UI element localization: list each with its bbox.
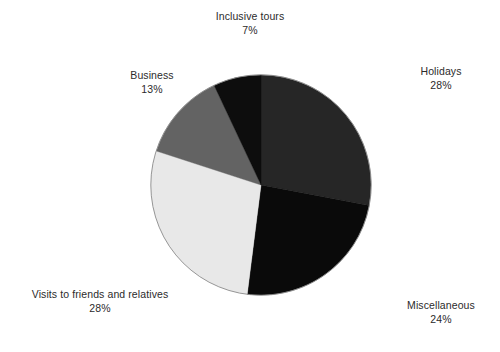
slice-label-inclusive-tours: Inclusive tours 7% (170, 10, 330, 38)
pie-chart-figure: Inclusive tours 7% Business 13% Holidays… (0, 0, 500, 352)
pie-slice-holidays[interactable] (261, 75, 371, 206)
slice-label-name: Business (92, 69, 212, 83)
slice-label-visits-to-friends-and-relatives: Visits to friends and relatives 28% (8, 288, 192, 316)
slice-label-name: Holidays (386, 65, 496, 79)
slice-label-percent: 13% (92, 83, 212, 97)
pie-slice-group (151, 75, 371, 295)
slice-label-percent: 28% (386, 79, 496, 93)
slice-label-percent: 7% (170, 24, 330, 38)
slice-label-name: Inclusive tours (170, 10, 330, 24)
slice-label-percent: 28% (8, 302, 192, 316)
pie-chart-graphic (150, 74, 372, 296)
slice-label-name: Visits to friends and relatives (8, 288, 192, 302)
slice-label-name: Miscellaneous (382, 299, 500, 313)
pie-svg (150, 74, 372, 296)
slice-label-business: Business 13% (92, 69, 212, 97)
slice-label-miscellaneous: Miscellaneous 24% (382, 299, 500, 327)
slice-label-percent: 24% (382, 313, 500, 327)
slice-label-holidays: Holidays 28% (386, 65, 496, 93)
